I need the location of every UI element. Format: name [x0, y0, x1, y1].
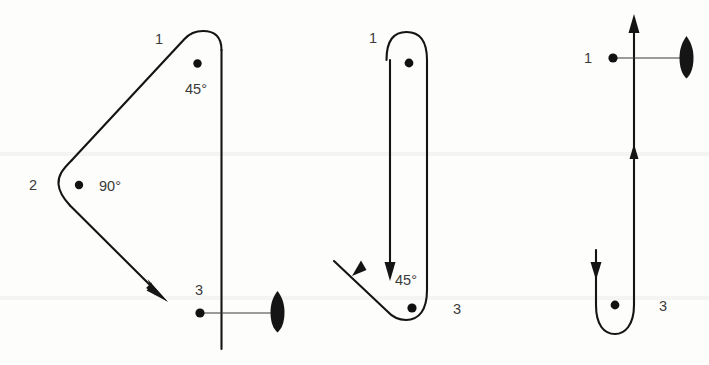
figure-root: 1 2 3 45° 90° 1 3 45° [0, 0, 709, 365]
ship-icon [680, 36, 694, 79]
left-outbound-leg [70, 206, 157, 293]
middle-outbound-arrowhead [352, 261, 367, 277]
middle-label-angle-45: 45° [395, 272, 417, 288]
right-top-arrowhead [629, 14, 640, 33]
right-dot-point3 [611, 301, 620, 310]
left-vertex-curve-point2 [58, 161, 71, 206]
right-return-arrowhead [591, 262, 602, 280]
middle-dot-point1 [405, 59, 414, 68]
left-label-angle-45: 45° [185, 81, 207, 97]
middle-label-point1: 1 [369, 30, 377, 46]
left-label-point2: 2 [29, 177, 37, 193]
right-label-point3: 3 [659, 298, 667, 314]
left-dot-point3 [195, 308, 204, 317]
diagram-left: 1 2 3 45° 90° [29, 31, 285, 349]
right-mid-arrowhead [630, 144, 639, 159]
left-label-angle-90: 90° [99, 178, 121, 194]
diagram-middle: 1 3 45° [334, 30, 461, 320]
left-label-point3: 3 [195, 282, 203, 298]
right-dot-point1 [608, 53, 617, 62]
left-label-point1: 1 [155, 31, 163, 47]
scan-band-lower [0, 296, 709, 300]
diagram-right: 1 3 [584, 14, 694, 334]
middle-label-point3: 3 [453, 301, 461, 317]
diagram-canvas: 1 2 3 45° 90° 1 3 45° [0, 0, 709, 365]
middle-inner-arrowhead [385, 262, 396, 281]
right-uturn-curve-point3 [596, 250, 634, 334]
left-dot-point2 [75, 181, 83, 189]
right-label-point1: 1 [584, 50, 592, 66]
left-dot-point1 [193, 59, 201, 67]
middle-dot-point3 [407, 303, 416, 312]
scan-band-upper [0, 152, 709, 156]
